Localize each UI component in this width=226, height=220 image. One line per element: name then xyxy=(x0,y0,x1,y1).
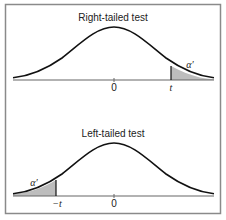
alpha-prime-label: α′ xyxy=(30,177,38,188)
panel-title-right-tailed: Right-tailed test xyxy=(78,12,148,23)
figure-frame xyxy=(6,5,221,214)
tick-label-zero: 0 xyxy=(111,82,117,93)
bell-curve xyxy=(13,143,214,194)
left-tailed-panel: Left-tailed test −t 0 α′ xyxy=(13,128,214,209)
right-tailed-panel: Right-tailed test 0 t α′ xyxy=(13,12,214,93)
tick-label-zero: 0 xyxy=(111,198,117,209)
tick-label-neg-t: −t xyxy=(52,198,62,209)
panel-title-left-tailed: Left-tailed test xyxy=(82,128,145,139)
t-distribution-diagram: Right-tailed test 0 t α′ Left-tailed tes… xyxy=(0,0,226,220)
bell-curve xyxy=(13,27,214,78)
alpha-prime-label: α′ xyxy=(186,59,194,70)
tick-label-t: t xyxy=(170,82,173,93)
